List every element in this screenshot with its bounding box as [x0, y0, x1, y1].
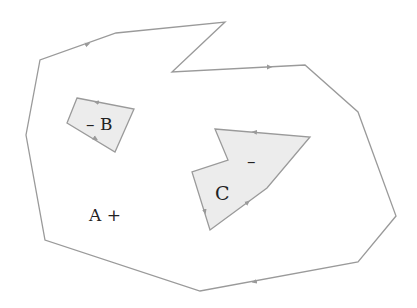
region-b-label: – B — [86, 114, 112, 134]
region-c-label: C — [215, 182, 230, 204]
region-a-boundary — [26, 22, 396, 291]
region-c-sign: – — [247, 151, 256, 171]
region-diagram: – B – C A + — [0, 0, 417, 308]
region-a-label: A + — [88, 205, 121, 225]
region-c-hole — [192, 129, 310, 230]
